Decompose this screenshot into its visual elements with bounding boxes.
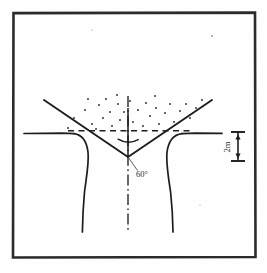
fill-dot bbox=[179, 110, 181, 112]
right-ground-surface bbox=[182, 133, 222, 134]
fill-dot bbox=[73, 117, 75, 119]
fill-dot bbox=[189, 117, 191, 119]
fill-dot bbox=[201, 99, 203, 101]
scan-speck bbox=[211, 35, 213, 37]
fill-dot bbox=[105, 98, 107, 100]
fill-dot bbox=[154, 95, 156, 97]
fill-dot bbox=[109, 111, 111, 113]
fill-dot bbox=[87, 98, 89, 100]
fill-dot bbox=[169, 103, 171, 105]
fill-dot bbox=[164, 112, 166, 114]
fill-dot bbox=[91, 123, 93, 125]
scan-speck bbox=[200, 205, 201, 206]
fill-dot bbox=[111, 125, 113, 127]
fill-dot bbox=[84, 109, 86, 111]
fill-dot bbox=[95, 128, 97, 130]
fill-dot bbox=[67, 127, 69, 129]
fill-dot bbox=[142, 125, 144, 127]
fill-dot bbox=[145, 102, 147, 104]
fill-dot bbox=[117, 103, 119, 105]
fill-dot bbox=[195, 107, 197, 109]
fill-dot bbox=[102, 117, 104, 119]
figure-container: 60° 2m bbox=[0, 0, 267, 273]
fill-dot bbox=[137, 109, 139, 111]
fill-dot bbox=[123, 111, 125, 113]
fill-dot bbox=[98, 104, 100, 106]
fill-dot bbox=[119, 119, 121, 121]
fill-dot bbox=[129, 100, 131, 102]
fill-dot bbox=[149, 115, 151, 117]
fill-dot bbox=[127, 130, 129, 132]
fill-dot bbox=[185, 103, 187, 105]
drawing-background bbox=[0, 0, 267, 273]
frame-inner-top bbox=[14, 14, 254, 15]
fill-dot bbox=[116, 94, 118, 96]
cross-section-drawing: 60° 2m bbox=[0, 0, 267, 273]
fill-dot bbox=[132, 121, 134, 123]
angle-label: 60° bbox=[136, 169, 148, 179]
scan-speck bbox=[91, 29, 92, 30]
fill-dot bbox=[158, 123, 160, 125]
dimension-label: 2m bbox=[222, 141, 232, 152]
fill-dot bbox=[155, 107, 157, 109]
fill-dot bbox=[173, 121, 175, 123]
